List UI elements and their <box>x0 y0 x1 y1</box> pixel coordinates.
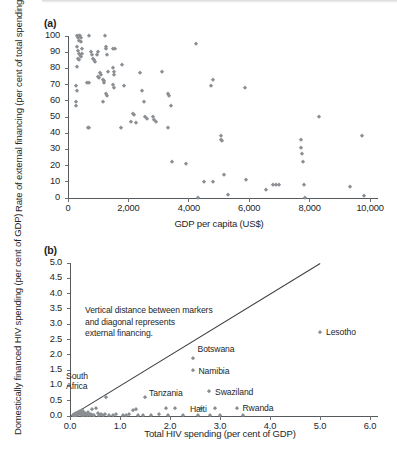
y-tick <box>65 149 69 150</box>
data-point-marker <box>118 126 123 131</box>
panel-b-y-axis <box>70 263 71 417</box>
data-point-marker <box>144 116 149 121</box>
data-point-marker <box>226 192 231 197</box>
x-tick <box>120 416 121 420</box>
data-point-marker <box>134 121 139 126</box>
x-tick <box>309 198 310 202</box>
panel-a: (a) Rate of external financing (per cent… <box>0 0 397 235</box>
y-tick-label: 0.0 <box>28 410 62 420</box>
data-point-marker <box>120 63 125 68</box>
external-financing-annotation: Vertical distance between markers and di… <box>85 305 213 340</box>
country-label-rwanda: Rwanda <box>243 403 274 413</box>
y-tick-label: 30 <box>26 143 60 153</box>
data-point-marker <box>105 94 110 99</box>
data-point-marker <box>105 53 110 58</box>
y-tick-label: 90 <box>26 46 60 56</box>
country-label-haiti: Haiti <box>190 404 207 414</box>
x-tick-label: 2,000 <box>98 203 158 213</box>
data-point-marker <box>138 71 143 76</box>
panel-b-ylabel: Domestically financed HIV spending (per … <box>12 255 23 435</box>
data-point-marker <box>140 89 145 94</box>
figure-container: (a) Rate of external financing (per cent… <box>0 0 397 467</box>
data-point-marker <box>164 406 168 410</box>
x-tick <box>370 198 371 202</box>
y-tick-label: 4.0 <box>28 288 62 298</box>
diagonal-reference-line <box>70 263 321 417</box>
data-point-marker <box>213 406 217 410</box>
y-tick-label: 0 <box>26 192 60 202</box>
country-label-line: South <box>66 371 88 381</box>
y-tick-label: 80 <box>26 62 60 72</box>
y-tick-label: 1.0 <box>28 379 62 389</box>
y-tick-label: 2.0 <box>28 349 62 359</box>
panel-a-plot-area: 010203040506070809010002,0004,0006,0008,… <box>68 36 370 198</box>
data-point-marker <box>191 368 195 372</box>
data-point-marker <box>201 179 206 184</box>
country-label-south-africa: SouthAfrica <box>66 371 88 391</box>
y-tick <box>65 165 69 166</box>
panel-b-xlabel: Total HIV spending (per cent of GDP) <box>70 428 370 439</box>
x-tick <box>128 198 129 202</box>
y-tick <box>67 308 71 309</box>
country-label-namibia: Namibia <box>199 366 230 376</box>
annotation-line-3: external financing. <box>85 328 213 340</box>
panel-a-y-axis <box>68 36 69 199</box>
data-point-marker <box>75 89 80 94</box>
data-point-marker <box>93 60 98 65</box>
y-tick <box>65 133 69 134</box>
data-point-marker <box>244 178 249 183</box>
data-point-marker <box>195 196 200 201</box>
x-tick <box>370 416 371 420</box>
annotation-line-1: Vertical distance between markers <box>85 305 213 317</box>
y-tick-label: 100 <box>26 30 60 40</box>
data-point-marker <box>316 115 321 120</box>
data-point-marker <box>191 356 195 360</box>
y-tick <box>67 293 71 294</box>
data-point-marker <box>170 160 175 165</box>
y-tick-label: 5.0 <box>28 257 62 267</box>
y-tick <box>65 181 69 182</box>
data-point-marker <box>134 407 138 411</box>
data-point-marker <box>194 42 199 47</box>
data-point-marker <box>211 179 216 184</box>
data-point-marker <box>76 58 81 63</box>
panel-b-tag: (b) <box>44 244 57 256</box>
data-point-marker <box>301 183 306 188</box>
y-tick-label: 2.5 <box>28 334 62 344</box>
data-point-marker <box>103 34 108 39</box>
x-tick-label: 10,000 <box>340 203 397 213</box>
y-tick <box>65 117 69 118</box>
data-point-marker <box>221 173 226 178</box>
y-tick-label: 10 <box>26 176 60 186</box>
data-point-marker <box>173 406 177 410</box>
panel-b-plot-area: Vertical distance between markers and di… <box>70 263 370 416</box>
data-point-marker <box>79 40 84 45</box>
data-point-marker <box>149 413 153 417</box>
y-tick <box>65 68 69 69</box>
data-point-marker <box>208 413 212 417</box>
panel-a-tag: (a) <box>44 17 56 29</box>
data-point-marker <box>183 162 188 167</box>
data-point-marker <box>113 47 118 52</box>
data-point-marker <box>360 134 365 139</box>
data-point-marker <box>211 77 216 82</box>
y-tick <box>65 36 69 37</box>
data-point-marker <box>209 84 214 89</box>
data-point-marker <box>105 69 110 74</box>
x-tick <box>188 198 189 202</box>
data-point-marker <box>263 187 268 192</box>
country-label-botswana: Botswana <box>198 344 235 354</box>
y-tick <box>67 324 71 325</box>
x-tick <box>170 416 171 420</box>
data-point-marker <box>141 100 146 105</box>
y-tick-label: 60 <box>26 95 60 105</box>
data-point-marker <box>235 406 239 410</box>
y-tick-label: 20 <box>26 160 60 170</box>
data-point-marker <box>112 72 117 77</box>
y-tick-label: 0.5 <box>28 395 62 405</box>
y-tick <box>67 339 71 340</box>
y-tick-label: 4.5 <box>28 272 62 282</box>
data-point-marker <box>75 64 80 69</box>
data-point-marker <box>300 152 305 157</box>
country-label-lesotho: Lesotho <box>326 327 356 337</box>
